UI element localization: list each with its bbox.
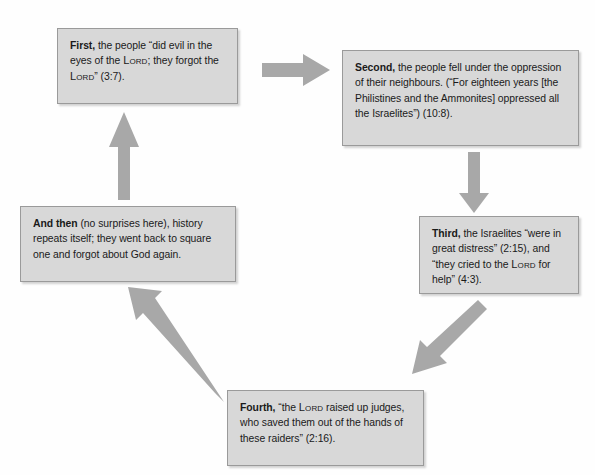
node-fourth[interactable]: Fourth, “the Lord raised up judges, who … — [227, 390, 424, 466]
arrow-andthen-to-first — [109, 112, 139, 200]
arrow-second-to-third — [459, 152, 489, 213]
node-and-then[interactable]: And then (no surprises here), history re… — [20, 206, 236, 282]
node-first[interactable]: First, the people “did evil in the eyes … — [57, 28, 238, 104]
node-second-lead: Second, — [355, 62, 395, 73]
arrow-fourth-to-andthen — [128, 287, 224, 402]
arrow-first-to-second — [262, 54, 330, 86]
node-fourth-lead: Fourth, — [240, 402, 275, 413]
node-first-lord-2: Lord — [70, 70, 94, 82]
node-fourth-body: “the — [275, 402, 298, 413]
arrow-third-to-fourth — [412, 300, 487, 374]
node-third[interactable]: Third, the Israelites “were in great dis… — [419, 216, 579, 294]
diagram-canvas: First, the people “did evil in the eyes … — [0, 0, 595, 475]
node-third-lead: Third, — [432, 228, 461, 239]
node-third-lord-1: Lord — [511, 258, 535, 270]
node-first-lord-1: Lord — [123, 54, 147, 66]
node-first-body2: ; they forgot the — [147, 55, 218, 66]
node-and-then-lead: And then — [33, 218, 78, 229]
node-first-body3: ” (3:7). — [94, 71, 124, 82]
node-second[interactable]: Second, the people fell under the oppres… — [342, 50, 579, 146]
node-fourth-lord-1: Lord — [299, 401, 323, 413]
node-first-lead: First, — [70, 40, 95, 51]
